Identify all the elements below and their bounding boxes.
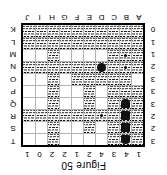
grid-cell-EL[interactable] <box>83 37 95 49</box>
grid-cell-AN[interactable] <box>131 61 143 73</box>
grid-cell-IP[interactable] <box>35 85 47 97</box>
grid-cell-IO[interactable] <box>35 73 47 85</box>
grid-cell-BR[interactable] <box>119 109 131 121</box>
grid-cell-ES[interactable] <box>83 121 95 133</box>
grid-cell-GQ[interactable] <box>59 97 71 109</box>
grid-cell-HN[interactable] <box>47 61 59 73</box>
grid-cell-HL[interactable] <box>47 37 59 49</box>
grid-cell-BQ[interactable] <box>119 97 131 109</box>
grid-cell-BO[interactable] <box>119 73 131 85</box>
grid-cell-FN[interactable] <box>71 61 83 73</box>
grid-cell-ER[interactable] <box>83 109 95 121</box>
grid-cell-JO[interactable] <box>23 73 35 85</box>
grid-cell-CT[interactable] <box>107 133 119 145</box>
grid-cell-HS[interactable] <box>47 121 59 133</box>
grid-cell-AR[interactable] <box>131 109 143 121</box>
grid-cell-CK[interactable] <box>107 25 119 37</box>
grid-cell-GM[interactable] <box>59 49 71 61</box>
grid-cell-AL[interactable] <box>131 37 143 49</box>
grid-cell-HO[interactable] <box>47 73 59 85</box>
grid-cell-FQ[interactable] <box>71 97 83 109</box>
grid-cell-ET[interactable] <box>83 133 95 145</box>
grid-cell-DL[interactable] <box>95 37 107 49</box>
grid-cell-FK[interactable] <box>71 25 83 37</box>
grid-cell-GL[interactable] <box>59 37 71 49</box>
grid-cell-CL[interactable] <box>107 37 119 49</box>
grid-cell-GN[interactable] <box>59 61 71 73</box>
grid-cell-AK[interactable] <box>131 25 143 37</box>
grid-cell-CM[interactable] <box>107 49 119 61</box>
grid-cell-GK[interactable] <box>59 25 71 37</box>
grid-cell-HQ[interactable] <box>47 97 59 109</box>
grid-cell-DN[interactable] <box>95 61 107 73</box>
grid-cell-FM[interactable] <box>71 49 83 61</box>
grid-cell-CS[interactable] <box>107 121 119 133</box>
grid-cell-BS[interactable] <box>119 121 131 133</box>
grid-cell-DT[interactable] <box>95 133 107 145</box>
grid-cell-EO[interactable] <box>83 73 95 85</box>
grid-cell-IK[interactable] <box>35 25 47 37</box>
grid-cell-AM[interactable] <box>131 49 143 61</box>
grid-cell-IM[interactable] <box>35 49 47 61</box>
grid-cell-EM[interactable] <box>83 49 95 61</box>
grid-cell-IQ[interactable] <box>35 97 47 109</box>
grid-cell-IN[interactable] <box>35 61 47 73</box>
grid-cell-DM[interactable] <box>95 49 107 61</box>
grid-cell-FS[interactable] <box>71 121 83 133</box>
grid-cell-JR[interactable] <box>23 109 35 121</box>
grid-cell-EQ[interactable] <box>83 97 95 109</box>
grid-cell-FP[interactable] <box>71 85 83 97</box>
grid-cell-HP[interactable] <box>47 85 59 97</box>
grid-cell-BT[interactable] <box>119 133 131 145</box>
grid-cell-IL[interactable] <box>35 37 47 49</box>
grid-cell-IS[interactable] <box>35 121 47 133</box>
grid-cell-CQ[interactable] <box>107 97 119 109</box>
grid-cell-JQ[interactable] <box>23 97 35 109</box>
grid-cell-FL[interactable] <box>71 37 83 49</box>
grid-cell-JP[interactable] <box>23 85 35 97</box>
grid-cell-BK[interactable] <box>119 25 131 37</box>
grid-cell-JK[interactable] <box>23 25 35 37</box>
grid-cell-DO[interactable] <box>95 73 107 85</box>
grid-cell-HK[interactable] <box>47 25 59 37</box>
grid-cell-EK[interactable] <box>83 25 95 37</box>
grid-cell-EP[interactable] <box>83 85 95 97</box>
grid-cell-DK[interactable] <box>95 25 107 37</box>
grid-cell-JM[interactable] <box>23 49 35 61</box>
grid-cell-BP[interactable] <box>119 85 131 97</box>
grid-cell-HM[interactable] <box>47 49 59 61</box>
grid-cell-GO[interactable] <box>59 73 71 85</box>
grid-cell-JL[interactable] <box>23 37 35 49</box>
grid-cell-FT[interactable] <box>71 133 83 145</box>
grid-cell-JN[interactable] <box>23 61 35 73</box>
grid-cell-JT[interactable] <box>23 133 35 145</box>
grid-cell-BN[interactable] <box>119 61 131 73</box>
grid-cell-CR[interactable] <box>107 109 119 121</box>
grid-cell-AQ[interactable] <box>131 97 143 109</box>
grid-cell-HR[interactable] <box>47 109 59 121</box>
grid-cell-AS[interactable] <box>131 121 143 133</box>
grid-cell-CP[interactable] <box>107 85 119 97</box>
grid-cell-FO[interactable] <box>71 73 83 85</box>
grid-cell-DR[interactable] <box>95 109 107 121</box>
grid-cell-IT[interactable] <box>35 133 47 145</box>
grid-cell-EN[interactable] <box>83 61 95 73</box>
grid-cell-GT[interactable] <box>59 133 71 145</box>
grid-cell-GP[interactable] <box>59 85 71 97</box>
grid-cell-DQ[interactable] <box>95 97 107 109</box>
grid-cell-DP[interactable] <box>95 85 107 97</box>
grid-cell-AT[interactable] <box>131 133 143 145</box>
grid-cell-GS[interactable] <box>59 121 71 133</box>
grid-cell-IR[interactable] <box>35 109 47 121</box>
battleship-board[interactable] <box>21 23 145 147</box>
grid-cell-HT[interactable] <box>47 133 59 145</box>
grid-cell-AO[interactable] <box>131 73 143 85</box>
grid-cell-CN[interactable] <box>107 61 119 73</box>
grid-cell-BM[interactable] <box>119 49 131 61</box>
grid-cell-BL[interactable] <box>119 37 131 49</box>
grid-cell-CO[interactable] <box>107 73 119 85</box>
grid-cell-AP[interactable] <box>131 85 143 97</box>
grid-cell-DS[interactable] <box>95 121 107 133</box>
grid-cell-FR[interactable] <box>71 109 83 121</box>
grid-cell-GR[interactable] <box>59 109 71 121</box>
